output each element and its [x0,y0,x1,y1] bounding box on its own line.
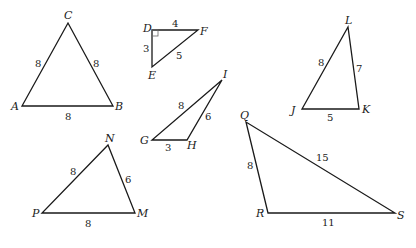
side-length-label: 8 [70,166,76,177]
vertex-label: B [114,100,123,113]
side-length-label: 8 [247,160,253,171]
triangle-abc: ABC888 [10,9,123,122]
right-angle-marker [152,30,158,36]
triangle-outline [152,30,198,67]
vertex-label: C [64,9,73,22]
side-length-label: 8 [93,58,99,69]
vertex-label: J [289,104,296,117]
vertex-label: G [140,134,149,147]
side-length-label: 7 [356,63,362,74]
vertex-label: I [222,68,228,81]
vertex-label: R [255,207,264,220]
triangle-outline [152,80,222,140]
side-length-label: 3 [165,142,171,153]
triangle-outline [302,27,359,109]
side-length-label: 5 [176,50,182,61]
vertex-label: E [147,69,156,82]
vertex-label: S [397,209,405,222]
side-length-label: 8 [85,218,91,229]
vertex-label: F [199,25,208,38]
triangle-def: DFE435 [142,18,208,82]
vertex-label: D [142,22,152,35]
side-length-label: 4 [172,18,178,29]
triangle-outline [42,145,135,213]
diagram-svg: ABC888DFE435GHI863JKL875NPM868QRS81511 [0,0,416,248]
side-length-label: 6 [205,111,211,122]
side-length-label: 8 [65,111,71,122]
triangle-qrs: QRS81511 [240,109,405,228]
side-length-label: 11 [322,217,335,228]
triangle-jkl: JKL875 [289,14,371,123]
triangle-npm: NPM868 [31,132,149,229]
vertex-label: P [31,207,40,220]
vertex-label: A [10,100,19,113]
side-length-label: 8 [178,100,184,111]
vertex-label: Q [240,109,249,122]
side-length-label: 5 [327,112,333,123]
vertex-label: H [186,139,197,152]
side-length-label: 3 [143,43,149,54]
side-length-label: 8 [35,58,41,69]
vertex-label: L [344,14,352,27]
side-length-label: 6 [125,174,131,185]
triangles-diagram: ABC888DFE435GHI863JKL875NPM868QRS81511 [0,0,416,248]
vertex-label: N [104,132,115,145]
vertex-label: M [136,207,149,220]
triangle-outline [246,122,395,213]
side-length-label: 8 [318,57,324,68]
side-length-label: 15 [316,152,329,163]
vertex-label: K [361,103,371,116]
